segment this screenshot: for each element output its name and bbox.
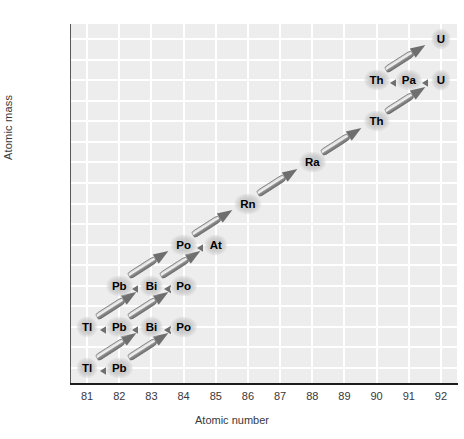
x-axis-title: Atomic number — [0, 414, 464, 426]
nuclide-label-po-210[interactable]: Po — [173, 320, 194, 334]
x-tick-label: 84 — [169, 390, 199, 402]
beta-decay-arrow[interactable] — [197, 239, 203, 250]
nuclide-symbol: Th — [370, 115, 384, 127]
x-tick-label: 86 — [233, 390, 263, 402]
nuclide-label-pa-234[interactable]: Pa — [399, 73, 419, 87]
nuclide-label-th-230[interactable]: Th — [367, 114, 387, 128]
gridline-horizontal — [71, 161, 457, 163]
gridline-horizontal — [71, 264, 457, 266]
nuclide-symbol: Bi — [146, 321, 158, 333]
gridline-horizontal — [71, 141, 457, 143]
nuclide-symbol: Ra — [305, 156, 320, 168]
nuclide-label-u-238[interactable]: U — [434, 32, 448, 46]
nuclide-label-po-214[interactable]: Po — [173, 279, 194, 293]
nuclide-label-th-234[interactable]: Th — [367, 73, 387, 87]
nuclide-label-tl-206[interactable]: Tl — [79, 361, 95, 375]
gridline-horizontal — [71, 223, 457, 225]
nuclide-label-pb-210[interactable]: Pb — [109, 320, 130, 334]
beta-decay-arrow[interactable] — [422, 75, 428, 86]
nuclide-symbol: Pb — [112, 321, 127, 333]
x-tick-label: 90 — [362, 390, 392, 402]
nuclide-symbol: U — [437, 33, 445, 45]
nuclide-symbol: At — [210, 239, 222, 251]
beta-decay-arrow[interactable] — [132, 321, 138, 332]
nuclide-label-u-234[interactable]: U — [434, 73, 448, 87]
nuclide-symbol: U — [437, 74, 445, 86]
x-tick-label: 89 — [329, 390, 359, 402]
nuclide-label-po-218[interactable]: Po — [173, 238, 194, 252]
nuclide-label-pb-214[interactable]: Pb — [109, 279, 130, 293]
nuclide-label-at-218[interactable]: At — [207, 238, 225, 252]
nuclide-symbol: Pb — [112, 280, 127, 292]
decay-chain-chart: Atomic mass Atomic number 20621021421822… — [0, 0, 464, 439]
nuclide-label-bi-210[interactable]: Bi — [143, 320, 161, 334]
nuclide-symbol: Po — [176, 280, 191, 292]
nuclide-symbol: Tl — [82, 321, 92, 333]
x-tick-label: 92 — [426, 390, 456, 402]
x-tick-label: 88 — [297, 390, 327, 402]
nuclide-symbol: Tl — [82, 362, 92, 374]
nuclide-symbol: Pa — [402, 74, 416, 86]
nuclide-symbol: Th — [370, 74, 384, 86]
nuclide-symbol: Rn — [240, 198, 255, 210]
x-tick-label: 81 — [72, 390, 102, 402]
x-tick-label: 85 — [201, 390, 231, 402]
beta-decay-arrow[interactable] — [132, 280, 138, 291]
nuclide-label-ra-226[interactable]: Ra — [302, 155, 323, 169]
y-axis-title: Atomic mass — [2, 40, 14, 160]
x-tick-label: 87 — [265, 390, 295, 402]
nuclide-symbol: Po — [176, 321, 191, 333]
x-tick-label: 82 — [104, 390, 134, 402]
nuclide-symbol: Pb — [112, 362, 127, 374]
gridline-horizontal — [71, 38, 457, 40]
nuclide-symbol: Bi — [146, 280, 158, 292]
gridline-horizontal — [71, 203, 457, 205]
nuclide-label-tl-210[interactable]: Tl — [79, 320, 95, 334]
nuclide-symbol: Po — [176, 239, 191, 251]
gridline-horizontal — [71, 244, 457, 246]
x-axis-line — [70, 383, 458, 385]
nuclide-label-rn-222[interactable]: Rn — [237, 197, 258, 211]
gridline-horizontal — [71, 120, 457, 122]
x-tick-label: 91 — [394, 390, 424, 402]
x-tick-label: 83 — [136, 390, 166, 402]
nuclide-label-pb-206[interactable]: Pb — [109, 361, 130, 375]
nuclide-label-bi-214[interactable]: Bi — [143, 279, 161, 293]
